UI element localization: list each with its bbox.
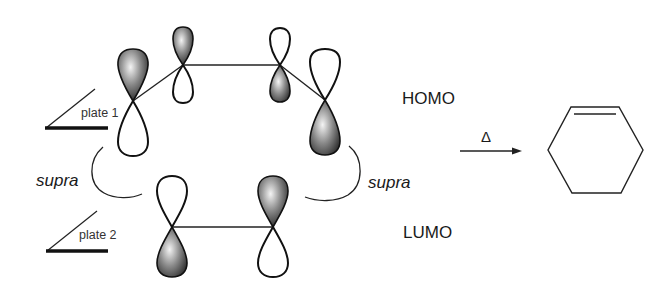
lobe-top-open [270,28,290,65]
cyclohexene-ring [548,107,643,193]
lumo-component [157,176,288,277]
cyclohexene-product [548,107,643,193]
fmo-diagram: plate 1 plate 2 supra supra HOMO LUMO Δ [0,0,668,290]
plate-2: plate 2 [46,211,117,251]
lobe-top-shaded [258,176,288,227]
heat-label: Δ [481,128,491,145]
supra-label-right: supra [368,173,411,192]
reaction-arrow: Δ [460,128,522,155]
supra-label-left: supra [36,171,79,190]
homo-component [118,27,340,156]
lobe-bottom-shaded [157,227,187,277]
plate-1: plate 1 [45,89,119,128]
lobe-bottom-open [118,101,148,156]
arrow-head-icon [512,148,522,155]
lobe-top-shaded [173,27,193,65]
homo-label: HOMO [402,89,455,108]
p-orbital-homo-4 [310,49,340,155]
lumo-label: LUMO [403,223,452,242]
p-orbital-homo-1 [118,49,148,156]
plate-1-label: plate 1 [81,106,119,120]
lobe-bottom-shaded [310,100,340,155]
plate-2-label: plate 2 [79,228,117,242]
lobe-top-open [157,176,187,227]
lobe-bottom-open [258,227,288,277]
